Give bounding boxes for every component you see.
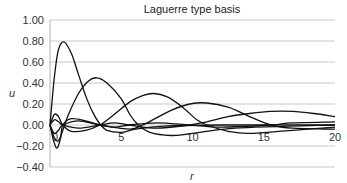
- y-tick-label: 0.60: [23, 56, 44, 68]
- y-tick-label: 1.00: [23, 14, 44, 26]
- series-basis-4: [50, 103, 335, 134]
- chart-title: Laguerre type basis: [144, 3, 241, 15]
- y-tick-label: 0.40: [23, 77, 44, 89]
- x-axis-label: r: [190, 170, 195, 182]
- chart: Laguerre type basis 1.000.800.600.400.20…: [0, 0, 347, 183]
- y-axis-ticks: 1.000.800.600.400.200.00−0.20−0.40: [16, 14, 44, 173]
- gridlines: [50, 20, 335, 167]
- y-tick-label: 0.80: [23, 35, 44, 47]
- y-axis-label: u: [9, 87, 15, 99]
- y-tick-label: 0.00: [23, 119, 44, 131]
- x-tick-label: 20: [329, 131, 341, 143]
- y-tick-label: 0.20: [23, 98, 44, 110]
- y-tick-label: −0.40: [16, 161, 44, 173]
- y-tick-label: −0.20: [16, 140, 44, 152]
- series-basis-1: [50, 42, 335, 133]
